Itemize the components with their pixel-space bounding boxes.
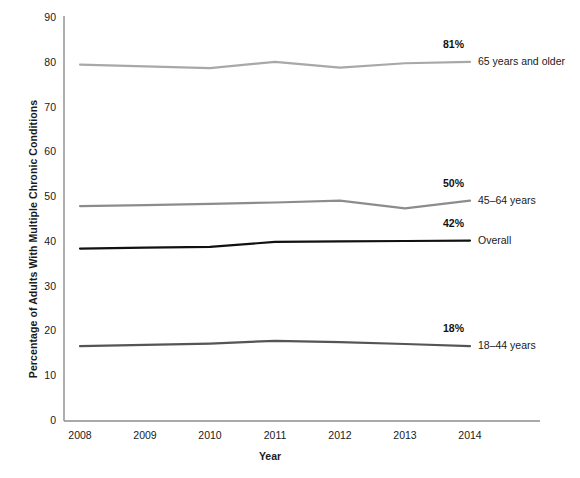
x-tick-label: 2013: [375, 429, 435, 441]
y-tick-label: 40: [34, 235, 56, 247]
series-line-0: [80, 62, 470, 68]
chart-container: Percentage of Adults With Multiple Chron…: [0, 0, 580, 478]
x-tick-label: 2010: [180, 429, 240, 441]
series-end-value: 42%: [443, 217, 464, 229]
x-tick-label: 2014: [440, 429, 500, 441]
series-line-3: [80, 341, 470, 346]
x-tick-label: 2012: [310, 429, 370, 441]
y-tick-label: 60: [34, 145, 56, 157]
series-end-value: 18%: [443, 322, 464, 334]
x-tick-label: 2011: [245, 429, 305, 441]
x-tick-label: 2009: [115, 429, 175, 441]
series-label: 45–64 years: [478, 194, 536, 206]
series-label: 18–44 years: [478, 339, 536, 351]
y-tick-label: 90: [34, 11, 56, 23]
x-tick-label: 2008: [50, 429, 110, 441]
series-line-1: [80, 201, 470, 209]
y-tick-label: 30: [34, 280, 56, 292]
y-tick-label: 10: [34, 369, 56, 381]
y-tick-label: 20: [34, 324, 56, 336]
series-label: 65 years and older: [478, 55, 565, 67]
series-line-2: [80, 241, 470, 249]
series-end-value: 81%: [443, 38, 464, 50]
y-tick-label: 80: [34, 56, 56, 68]
series-end-value: 50%: [443, 177, 464, 189]
y-tick-label: 50: [34, 190, 56, 202]
y-tick-label: 0: [34, 414, 56, 426]
series-label: Overall: [478, 234, 511, 246]
y-tick-label: 70: [34, 101, 56, 113]
